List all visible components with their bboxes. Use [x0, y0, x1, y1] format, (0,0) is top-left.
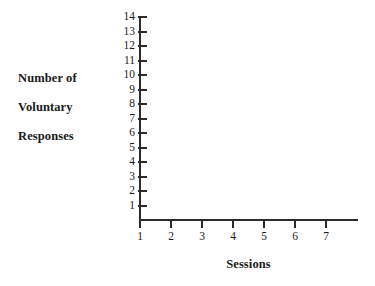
y-axis-tick-mark	[138, 147, 147, 149]
x-axis-tick-label: 3	[199, 231, 205, 243]
y-axis-tick-label: 9	[129, 84, 135, 97]
x-axis-tick-label: 4	[230, 231, 236, 243]
y-axis-tick-mark	[138, 132, 147, 134]
plot-area	[141, 16, 358, 219]
y-axis-tick-label: 12	[124, 40, 136, 53]
y-axis-tick-mark	[138, 118, 147, 120]
x-axis-tick-label: 1	[137, 231, 143, 243]
y-axis-tick-mark	[138, 45, 147, 47]
x-axis-title: Sessions	[139, 257, 358, 272]
y-axis-tick-label: 2	[129, 185, 135, 198]
y-axis-tick-label: 8	[129, 98, 135, 111]
x-axis-tick-mark	[139, 219, 141, 228]
y-axis-tick-mark	[138, 190, 147, 192]
x-axis-tick-label: 6	[292, 231, 298, 243]
y-axis-tick-mark	[138, 60, 147, 62]
y-axis-tick-mark	[138, 74, 147, 76]
chart-container: Number of Voluntary Responses 1234567891…	[0, 0, 375, 286]
x-axis-tick-label: 7	[323, 231, 329, 243]
y-axis-tick-label: 11	[124, 55, 135, 68]
x-axis-tick-mark	[170, 219, 172, 228]
y-axis-title-line-3: Responses	[18, 122, 110, 151]
y-axis-tick-mark	[138, 31, 147, 33]
y-axis-tick-mark	[138, 103, 147, 105]
x-axis-tick-mark	[263, 219, 265, 228]
x-axis-tick-mark	[294, 219, 296, 228]
x-axis-tick-label: 2	[168, 231, 174, 243]
y-axis-title-line-1: Number of	[18, 64, 110, 93]
y-axis-tick-mark	[138, 205, 147, 207]
y-axis-tick-mark	[138, 161, 147, 163]
x-axis-tick-mark	[201, 219, 203, 228]
y-axis-title: Number of Voluntary Responses	[18, 64, 110, 151]
y-axis-tick-label: 7	[129, 113, 135, 126]
y-axis-tick-label: 3	[129, 171, 135, 184]
y-axis-tick-label: 1	[129, 200, 135, 213]
y-axis-title-line-2: Voluntary	[18, 93, 110, 122]
y-axis-tick-mark	[138, 176, 147, 178]
y-axis-tick-label: 14	[124, 11, 136, 24]
y-axis-tick-label: 5	[129, 142, 135, 155]
x-axis-tick-mark	[325, 219, 327, 228]
y-axis-tick-label: 4	[129, 156, 135, 169]
x-axis-tick-label: 5	[261, 231, 267, 243]
y-axis-tick-mark	[138, 16, 147, 18]
y-axis-tick-label: 13	[124, 26, 136, 39]
x-axis-tick-mark	[232, 219, 234, 228]
y-axis-tick-label: 6	[129, 127, 135, 140]
y-axis-tick-mark	[138, 89, 147, 91]
y-axis-tick-label: 10	[124, 69, 136, 82]
